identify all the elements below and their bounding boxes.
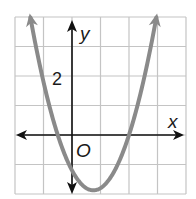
y-tick-label-2: 2 — [52, 69, 62, 89]
grid — [15, 17, 186, 194]
y-axis-label: y — [78, 23, 91, 44]
x-axis-label: x — [167, 111, 179, 132]
origin-label: O — [76, 140, 91, 161]
parabola-graph: y x O 2 — [0, 0, 196, 199]
